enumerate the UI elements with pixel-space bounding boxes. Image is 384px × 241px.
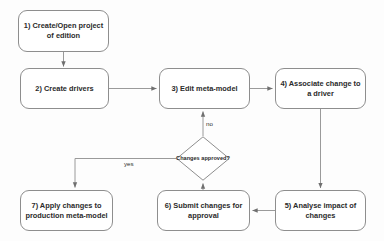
node-label: 5) Analyse impact of changes	[280, 201, 361, 221]
edge-label-no: no	[206, 120, 213, 127]
node-analyse-impact-of-changes[interactable]: 5) Analyse impact of changes	[275, 190, 366, 231]
node-edit-meta-model[interactable]: 3) Edit meta-model	[159, 68, 250, 109]
node-create-drivers[interactable]: 2) Create drivers	[20, 68, 109, 109]
node-label: 7) Apply changes to production meta-mode…	[25, 201, 108, 221]
flowchart-canvas: 1) Create/Open project of edition 2) Cre…	[0, 0, 384, 241]
node-associate-change-to-driver[interactable]: 4) Associate change to a driver	[275, 68, 366, 109]
node-label: 6) Submit changes for approval	[162, 201, 245, 221]
node-submit-changes-for-approval[interactable]: 6) Submit changes for approval	[157, 190, 250, 231]
node-label: 4) Associate change to a driver	[280, 79, 361, 99]
node-label: 1) Create/Open project of edition	[23, 21, 104, 41]
node-create-open-project[interactable]: 1) Create/Open project of edition	[18, 10, 109, 52]
decision-label: Changes approved?	[176, 136, 230, 181]
node-apply-changes-to-production[interactable]: 7) Apply changes to production meta-mode…	[20, 190, 113, 231]
decision-changes-approved[interactable]: Changes approved?	[176, 136, 230, 181]
edge-label-yes: yes	[124, 160, 134, 167]
node-label: 2) Create drivers	[35, 84, 93, 94]
node-label: 3) Edit meta-model	[171, 84, 237, 94]
